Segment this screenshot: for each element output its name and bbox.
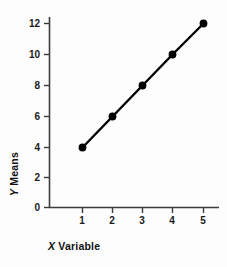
y-axis-title-text: Means <box>8 152 20 189</box>
chart-figure: 0 2 4 6 8 10 12 1 2 3 4 5 X Variable Y M… <box>0 0 227 267</box>
axes-group <box>49 17 219 208</box>
x-tick-label-2: 2 <box>102 216 122 226</box>
x-axis-title-text: Variable <box>55 240 100 252</box>
x-axis-title: X Variable <box>48 240 100 252</box>
x-tick-label-5: 5 <box>193 216 213 226</box>
x-axis-ticks <box>83 208 204 214</box>
x-tick-label-1: 1 <box>72 216 92 226</box>
line-chart-plot <box>0 0 227 267</box>
y-axis-title: Y Means <box>8 144 20 204</box>
x-tick-label-3: 3 <box>132 216 152 226</box>
y-axis-title-symbol: Y <box>8 189 20 196</box>
y-tick-label-12: 12 <box>18 19 40 29</box>
y-tick-label-2: 2 <box>18 173 40 183</box>
data-point-2 <box>109 113 117 121</box>
y-tick-label-6: 6 <box>18 112 40 122</box>
y-axis-ticks <box>44 24 50 208</box>
data-point-5 <box>200 20 208 28</box>
data-point-3 <box>139 82 147 90</box>
x-tick-label-4: 4 <box>162 216 182 226</box>
y-tick-label-0: 0 <box>18 203 40 213</box>
y-tick-label-10: 10 <box>18 50 40 60</box>
data-point-1 <box>79 144 87 152</box>
y-tick-label-4: 4 <box>18 143 40 153</box>
y-tick-label-8: 8 <box>18 81 40 91</box>
data-point-4 <box>169 51 177 59</box>
